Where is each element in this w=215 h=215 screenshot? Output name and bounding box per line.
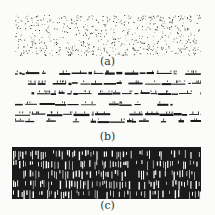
stroke-texture (12, 147, 201, 199)
dot-texture (15, 15, 201, 56)
panel-c-strokes (12, 147, 201, 199)
panel-b-label: (b) (0, 130, 215, 143)
panel-c-label: (c) (0, 199, 215, 212)
panel-b-streaks (15, 70, 201, 126)
panel-a-dots (15, 15, 201, 56)
panel-a-label: (a) (0, 55, 215, 68)
streak-texture (15, 70, 201, 126)
